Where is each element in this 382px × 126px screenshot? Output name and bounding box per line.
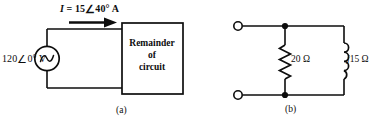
- angle-icon-source: ∠: [17, 53, 27, 65]
- caption-a: (a): [116, 105, 127, 115]
- current-unit: A: [112, 3, 119, 14]
- source-angle: 0°: [27, 53, 36, 64]
- resistor-value: 20: [291, 54, 301, 64]
- inductor-value: 15: [350, 54, 360, 64]
- circuit-figure: I = 15∠40° A 120∠0° V Remainder of circu…: [0, 0, 382, 126]
- resistor-label: 20 Ω: [291, 54, 310, 64]
- caption-b: (b): [285, 104, 296, 114]
- remainder-of-circuit-label: Remainder of circuit: [126, 38, 178, 74]
- box-line-3: circuit: [126, 62, 178, 74]
- source-value: 120: [2, 53, 17, 64]
- box-line-2: of: [126, 50, 178, 62]
- current-value: 15: [75, 3, 85, 14]
- inductor-label: j15 Ω: [347, 54, 369, 64]
- current-label: I = 15∠40° A: [60, 2, 119, 14]
- current-equals: =: [67, 3, 75, 14]
- terminal-bottom-open-circle: [234, 91, 242, 99]
- terminal-top-open-circle: [234, 22, 242, 30]
- source-unit: V: [39, 53, 46, 64]
- resistor-zigzag-icon: [280, 45, 291, 79]
- angle-icon-current: ∠: [85, 3, 95, 15]
- current-angle: 40°: [95, 3, 109, 14]
- circuit-drawing: [0, 0, 382, 126]
- current-arrow-icon: [69, 17, 117, 27]
- current-symbol: I: [60, 3, 64, 14]
- box-line-1: Remainder: [126, 38, 178, 50]
- resistor-unit: Ω: [303, 54, 310, 64]
- inductor-unit: Ω: [362, 54, 369, 64]
- source-voltage-label: 120∠0° V: [2, 52, 46, 64]
